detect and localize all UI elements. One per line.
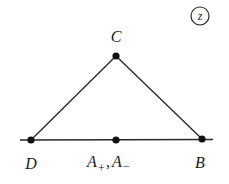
label-d: D: [24, 155, 37, 172]
label-a-plus-main: A: [86, 153, 97, 170]
point-d: [27, 136, 34, 143]
label-a-minus-main: A: [111, 153, 122, 170]
label-b: B: [195, 154, 205, 171]
label-a-separator: ,: [106, 153, 110, 170]
panel-badge: z: [191, 7, 209, 25]
point-a: [112, 136, 119, 143]
label-a-minus-sub: −: [123, 159, 130, 173]
badge-label: z: [197, 9, 203, 23]
point-b: [198, 135, 205, 142]
label-a-plus-sub: +: [98, 161, 105, 175]
edge-c-b: [116, 56, 202, 139]
point-c: [112, 52, 119, 59]
edge-d-c: [31, 56, 116, 140]
label-c: C: [111, 28, 122, 45]
label-a-plus-minus: A + , A −: [86, 153, 130, 175]
diagram-canvas: z C D B A + , A −: [0, 0, 229, 184]
